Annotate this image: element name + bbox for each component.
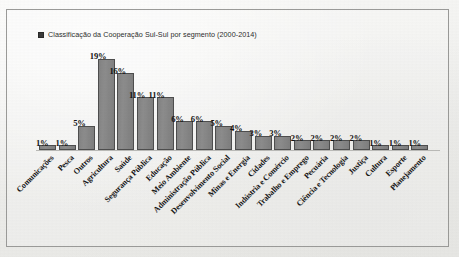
bar[interactable] [176, 121, 193, 150]
bar-value-label: 19% [90, 52, 107, 61]
bar-value-label: 3% [269, 129, 282, 138]
bar-value-label: 1% [56, 139, 69, 148]
bar-slot: 5% [214, 46, 234, 150]
bar-slot: 1% [371, 46, 391, 150]
bar-slot: 1% [58, 46, 78, 150]
chart-screenshot: Classificação da Cooperação Sul-Sul por … [0, 0, 459, 257]
bar-slot: 1% [391, 46, 411, 150]
bar[interactable] [78, 126, 95, 150]
x-axis-labels: ComunicaçõesPescaOutrosAgriculturaSaúdeS… [0, 152, 459, 252]
bar-value-label: 2% [310, 134, 323, 143]
bar-value-label: 1% [369, 139, 382, 148]
bar-value-label: 5% [210, 119, 223, 128]
bar-value-label: 16% [109, 67, 126, 76]
bar-slot: 2% [352, 46, 372, 150]
bar[interactable] [137, 97, 154, 150]
legend-swatch-icon [38, 32, 44, 38]
chart-legend: Classificação da Cooperação Sul-Sul por … [38, 31, 257, 38]
bar-value-label: 4% [230, 124, 243, 133]
x-axis-label: Comunicações [16, 154, 56, 194]
bar-slot: 19% [97, 46, 117, 150]
bar-slot: 1% [410, 46, 430, 150]
bar-value-label: 2% [330, 134, 343, 143]
bar-slot: 11% [156, 46, 176, 150]
plot-area: 1%1%5%19%16%11%11%6%6%5%4%3%3%2%2%2%2%1%… [36, 46, 436, 150]
bar-slot: 1% [38, 46, 58, 150]
bar-slot: 5% [77, 46, 97, 150]
bar-value-label: 6% [171, 115, 184, 124]
bar-value-label: 6% [191, 115, 204, 124]
bar-slot: 6% [195, 46, 215, 150]
bar-value-label: 2% [350, 134, 363, 143]
bar-value-label: 1% [408, 139, 421, 148]
legend-label: Classificação da Cooperação Sul-Sul por … [48, 31, 257, 38]
bar-value-label: 1% [389, 139, 402, 148]
x-axis-baseline [36, 150, 440, 151]
bar-value-label: 3% [250, 129, 263, 138]
bar[interactable] [117, 73, 134, 150]
bar-value-label: 11% [129, 91, 145, 100]
bar-value-label: 1% [36, 139, 49, 148]
bar-value-label: 2% [291, 134, 304, 143]
bar-value-label: 5% [73, 119, 86, 128]
bar-slot: 6% [175, 46, 195, 150]
bar-value-label: 11% [149, 91, 165, 100]
